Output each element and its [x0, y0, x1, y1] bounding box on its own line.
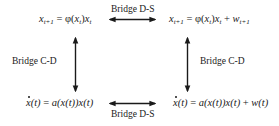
node-continuous-deterministic: x(t) = a(x(t))x(t) [26, 97, 93, 109]
formula-sub: t [219, 18, 221, 26]
edge-top-label: Bridge D-S [111, 4, 155, 15]
formula-eq: = [190, 97, 196, 108]
formula-xdot: x [26, 97, 31, 109]
formula-sub: t+1 [44, 18, 54, 26]
formula-xdot: x [173, 97, 178, 109]
formula-eq: = [186, 13, 192, 24]
formula-sub: t+1 [174, 18, 184, 26]
formula-arg: (t) [31, 97, 41, 108]
node-discrete-deterministic: xt+1 = φ(xt)xt [39, 13, 91, 25]
formula-rhs: (x(t))x(t) [204, 97, 240, 108]
formula-rhs: (x(t))x(t) [57, 97, 93, 108]
formula-arg: (t) [178, 97, 188, 108]
node-discrete-stochastic: xt+1 = φ(xt)xt + wt+1 [169, 13, 250, 25]
formula-eq: = [43, 97, 49, 108]
formula-sub: t [89, 18, 91, 26]
formula-noise: w [233, 13, 240, 24]
edge-bottom-label: Bridge D-S [111, 109, 155, 120]
edge-right-label: Bridge C-D [200, 56, 245, 67]
formula-sub: t+1 [240, 18, 250, 26]
formula-noise: w(t) [251, 97, 268, 108]
formula-plus: + [243, 97, 249, 108]
formula-plus: + [224, 13, 230, 24]
formula-eq: = [56, 13, 62, 24]
node-continuous-stochastic: x(t) = a(x(t))x(t) + w(t) [173, 97, 268, 109]
edge-left-label: Bridge C-D [12, 56, 57, 67]
